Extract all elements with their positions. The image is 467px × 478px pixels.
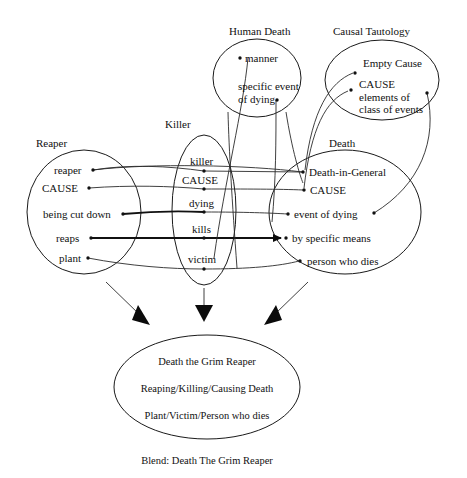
dot-empty-cause: [353, 71, 356, 74]
element-reaper-cause: CAUSE: [42, 182, 78, 194]
arrow-death-to-blend: [264, 282, 308, 325]
dot-victim: [202, 267, 205, 270]
dot-death-cause: [302, 188, 305, 191]
dot-death-in-general: [301, 170, 304, 173]
human-death-space-outline: [213, 39, 301, 117]
element-death-in-general: Death-in-General: [309, 166, 386, 178]
element-dying: dying: [189, 197, 215, 209]
dot-being-cut-down: [121, 212, 124, 215]
dot-kills: [202, 236, 205, 239]
element-elements-of: elements of: [359, 91, 410, 103]
causal-tautology-space-label: Causal Tautology: [333, 25, 410, 37]
dot-by-specific-means: [284, 236, 287, 239]
dot-reaper-cause: [87, 186, 90, 189]
death-space-label: Death: [329, 137, 356, 149]
dot-event-of-dying-left: [286, 212, 289, 215]
reaper-space-label: Reaper: [36, 137, 67, 149]
element-death-cause: CAUSE: [310, 184, 346, 196]
link-plant-to-victim: [88, 258, 204, 269]
dot-reaps: [89, 236, 92, 239]
link-being-cut-down-to-dying: [123, 211, 204, 214]
dot-killer: [202, 169, 205, 172]
element-reaps: reaps: [56, 232, 79, 244]
element-person-who-dies: person who dies: [307, 255, 379, 267]
blend-element-death-the-grim-reaper: Death the Grim Reaper: [158, 356, 256, 367]
element-victim: victim: [188, 253, 217, 265]
dot-event-of-dying-right: [372, 211, 375, 214]
element-plant: plant: [59, 252, 81, 264]
link-specific-event-of-dying-down: [272, 100, 276, 222]
blend-element-plant-victim-person-who-dies: Plant/Victim/Person who dies: [145, 410, 270, 421]
element-killer-cause: CAUSE: [182, 174, 218, 186]
dot-person-who-dies: [298, 259, 301, 262]
dot-specific-event-of-dying: [275, 98, 278, 101]
human-death-space-label: Human Death: [229, 25, 291, 37]
element-killer: killer: [190, 155, 214, 167]
element-being-cut-down: being cut down: [43, 208, 111, 220]
element-empty-cause: Empty Cause: [363, 57, 422, 69]
arrow-killer-to-blend: [195, 288, 213, 322]
element-by-specific-means: by specific means: [292, 232, 371, 244]
element-specific-event: specific event: [238, 80, 299, 92]
element-event-of-dying: event of dying: [294, 208, 358, 220]
conceptual-blending-diagram: Human Death Causal Tautology Reaper Kill…: [0, 0, 467, 478]
element-of-dying: of dying: [238, 93, 275, 105]
dot-plant: [86, 256, 89, 259]
element-manner: manner: [245, 52, 278, 64]
link-reaper-cause-to-killer-cause: [89, 186, 204, 189]
diagram-caption: Blend: Death The Grim Reaper: [141, 455, 273, 466]
dot-class-of-events: [425, 91, 428, 94]
link-victim-to-person-who-dies: [204, 261, 299, 269]
dot-killer-cause: [202, 187, 205, 190]
element-class-of-events: class of events: [359, 103, 423, 115]
link-dying-to-event-of-dying: [204, 212, 288, 214]
element-causal-cause: CAUSE: [359, 78, 395, 90]
killer-space-label: Killer: [165, 118, 191, 130]
dot-manner: [238, 56, 241, 59]
link-killer-cause-to-death-cause: [204, 189, 303, 190]
diagram-canvas: Human Death Causal Tautology Reaper Kill…: [0, 0, 467, 478]
element-reaper: reaper: [54, 164, 82, 176]
blend-element-reaping-killing-causing-death: Reaping/Killing/Causing Death: [141, 383, 274, 394]
dot-causal-cause: [349, 88, 352, 91]
arrow-reaper-to-blend: [106, 282, 150, 325]
element-kills: kills: [192, 223, 211, 235]
dot-dying: [202, 210, 205, 213]
dot-reaper: [91, 168, 94, 171]
